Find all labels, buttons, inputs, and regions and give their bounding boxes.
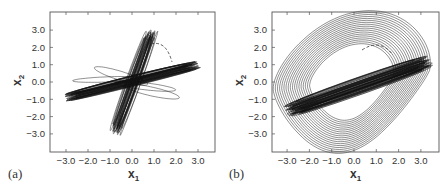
y-ticks-a: −3.0−2.0−1.00.01.02.03.0: [26, 24, 53, 139]
x-tick-label: −2.0: [79, 155, 98, 166]
x-tick-label: −3.0: [57, 155, 76, 166]
y-tick-label: 0.0: [32, 76, 45, 87]
x-tick-label: 3.0: [191, 155, 204, 166]
x-tick-label: 1.0: [147, 155, 160, 166]
y-ticks-b: −3.0−2.0−1.00.01.02.03.0: [248, 24, 275, 139]
x-tick-label: −1.0: [322, 155, 341, 166]
trajectory-a: [65, 30, 201, 136]
y-tick-label: 3.0: [32, 24, 45, 35]
y-tick-label: −2.0: [248, 111, 267, 122]
panel-b: −3.0−2.0−1.00.01.02.03.0 −3.0−2.0−1.00.0…: [229, 11, 439, 183]
x-tick-label: 1.0: [370, 155, 383, 166]
dashed-arc-a: [151, 43, 172, 62]
y-tick-label: −1.0: [248, 94, 267, 105]
x-tick-label: 2.0: [392, 155, 405, 166]
x-tick-label: −1.0: [101, 155, 120, 166]
x-axis-label-b: x1: [350, 167, 362, 183]
x-tick-label: 0.0: [125, 155, 138, 166]
y-tick-label: 2.0: [32, 42, 45, 53]
y-axis-label-b: x2: [232, 74, 248, 86]
x-axis-label-a: x1: [128, 167, 140, 183]
y-tick-label: −1.0: [26, 94, 45, 105]
x-tick-label: 3.0: [414, 155, 427, 166]
panel-label-b: (b): [229, 166, 244, 181]
y-tick-label: −3.0: [248, 128, 267, 139]
y-tick-label: 3.0: [254, 24, 267, 35]
y-tick-label: −2.0: [26, 111, 45, 122]
y-tick-label: 0.0: [254, 76, 267, 87]
y-tick-label: 2.0: [254, 42, 267, 53]
y-tick-label: −3.0: [26, 128, 45, 139]
plot-area-a: [65, 30, 201, 136]
y-axis-label-a: x2: [10, 74, 26, 86]
x-tick-label: −2.0: [300, 155, 319, 166]
y-tick-label: 1.0: [32, 59, 45, 70]
plot-area-b: [273, 11, 432, 154]
x-tick-label: −3.0: [278, 155, 297, 166]
x-ticks-a: −3.0−2.0−1.00.01.02.03.0: [57, 12, 205, 166]
figure: −3.0−2.0−1.00.01.02.03.0 −3.0−2.0−1.00.0…: [0, 0, 446, 189]
trajectory-b: [273, 11, 432, 154]
x-tick-label: 0.0: [347, 155, 360, 166]
panel-label-a: (a): [8, 166, 22, 181]
panel-a: −3.0−2.0−1.00.01.02.03.0 −3.0−2.0−1.00.0…: [8, 12, 215, 183]
y-tick-label: 1.0: [254, 59, 267, 70]
x-tick-label: 2.0: [169, 155, 182, 166]
